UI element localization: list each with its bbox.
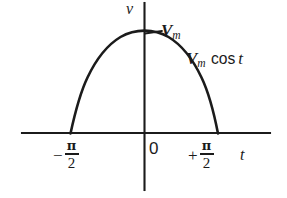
peak-amplitude-label: Vm [161,22,181,42]
fraction-positive-half-pi: π 2 [200,139,214,171]
origin-label: 0 [149,140,158,157]
curve-equation-label: Vmcost [186,50,243,70]
waveform-plot [0,0,287,198]
fraction-numerator: π [200,139,214,153]
peak-amplitude-subscript: m [172,29,181,42]
fraction-numerator: π [65,139,79,153]
positive-sign: + [188,146,198,166]
horizontal-axis-label: t [240,147,244,163]
xtick-label-negative-half-pi: − π 2 [53,139,79,171]
curve-function-name: cos [211,50,235,67]
curve-amplitude-symbol: V [186,49,197,68]
xtick-label-positive-half-pi: + π 2 [188,139,214,171]
curve-variable: t [238,49,243,68]
negative-sign: − [53,146,63,166]
peak-amplitude-symbol: V [161,21,172,40]
waveform-figure: v t Vm Vmcost 0 − π 2 + π 2 [0,0,287,198]
fraction-denominator: 2 [66,155,78,171]
vertical-axis-label: v [126,1,133,17]
fraction-denominator: 2 [201,155,213,171]
fraction-negative-half-pi: π 2 [65,139,79,171]
curve-amplitude-subscript: m [197,57,206,70]
